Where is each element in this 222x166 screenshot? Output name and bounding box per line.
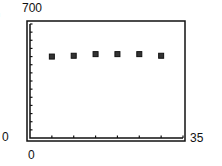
data-point-marker: [93, 52, 98, 57]
data-point-marker: [115, 52, 120, 57]
data-points: [49, 52, 163, 59]
data-point-marker: [49, 54, 54, 59]
data-point-marker: [71, 53, 76, 58]
scatter-plot: [0, 0, 222, 166]
plot-frame: [27, 21, 185, 141]
data-point-marker: [159, 53, 164, 58]
data-point-marker: [137, 52, 142, 57]
